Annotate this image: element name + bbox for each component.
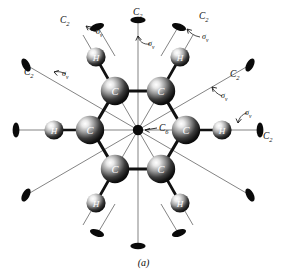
atom-c-lower-right: C [147, 155, 175, 183]
atom-c-lower-right-label: C [157, 164, 165, 175]
label-c2-right: C2 [263, 132, 273, 143]
c6-principal-axis-dot [133, 125, 143, 135]
atom-h-upper-left: H [86, 47, 105, 66]
c2-tip-lower-right-diag [243, 187, 256, 203]
c2-tip-bottom [130, 243, 145, 250]
label-c2-top: C2 [133, 8, 143, 19]
atom-h-lower-right-label: H [176, 199, 184, 209]
atom-h-left: H [44, 120, 63, 139]
label-sv-upper-left: σv [96, 28, 102, 38]
atom-c-right: C [172, 116, 200, 144]
atom-c-right-label: C [182, 125, 190, 136]
label-c2-right-diag-sub: 2 [236, 74, 239, 81]
figure-caption: (a) [0, 257, 287, 268]
label-c6-center: C6 [159, 124, 169, 135]
label-sv-right-sub: v [249, 113, 251, 119]
atom-h-lower-left-label: H [92, 199, 100, 209]
label-sv-left-diag: σv [62, 70, 68, 80]
label-sv-right-diag: σv [221, 92, 227, 102]
label-c2-upper-right: C2 [199, 12, 209, 23]
label-c2-top-sub: 2 [139, 12, 142, 19]
c2-tip-lower-right-60 [171, 227, 187, 238]
atom-c-upper-right: C [147, 77, 175, 105]
atom-c-lower-left: C [101, 155, 129, 183]
label-c2-left-diag: C2 [24, 68, 34, 79]
label-sv-upper-right: σv [202, 33, 208, 43]
c2-tip-upper-right-60 [171, 21, 187, 32]
figure-svg: H H H H H H [0, 0, 287, 279]
atom-h-upper-right: H [170, 47, 189, 66]
label-c2-upper-right-sub: 2 [205, 16, 208, 23]
label-c2-right-sub: 2 [269, 136, 272, 143]
atom-c-lower-left-label: C [111, 164, 119, 175]
atom-h-upper-right-label: H [176, 53, 184, 63]
atom-h-lower-left: H [86, 193, 105, 212]
c2-tip-upper-right-diag [243, 57, 256, 73]
c2-tip-left [13, 122, 20, 137]
arrow-sv-ld [54, 70, 59, 75]
label-sv-right: σv [245, 109, 251, 119]
atom-h-left-label: H [50, 126, 58, 136]
leader-sv-ur [187, 29, 200, 37]
c2-tip-lower-left-60 [89, 227, 105, 238]
atom-h-upper-left-label: H [92, 53, 100, 63]
label-c6-center-sub: 6 [165, 128, 168, 135]
atom-c-upper-left-label: C [111, 86, 119, 97]
label-sv-upper-right-sub: v [206, 37, 208, 43]
atom-h-right-label: H [218, 126, 226, 136]
label-c2-upper-left-sub: 2 [66, 20, 69, 27]
c2-tip-lower-left-diag [19, 187, 32, 203]
atom-h-right: H [212, 120, 231, 139]
atom-h-lower-right: H [170, 193, 189, 212]
atom-c-upper-left: C [101, 77, 129, 105]
label-sv-top: σv [148, 40, 154, 50]
atom-c-left-label: C [86, 125, 94, 136]
atom-c-left: C [76, 116, 104, 144]
label-sv-upper-left-sub: v [100, 32, 102, 38]
label-c2-right-diag: C2 [230, 70, 240, 81]
label-c2-upper-left: C2 [60, 16, 70, 27]
label-sv-right-diag-sub: v [225, 96, 227, 102]
atom-c-upper-right-label: C [157, 86, 165, 97]
label-sv-left-diag-sub: v [66, 74, 68, 80]
label-c2-left-diag-sub: 2 [30, 72, 33, 79]
label-sv-top-sub: v [152, 44, 154, 50]
